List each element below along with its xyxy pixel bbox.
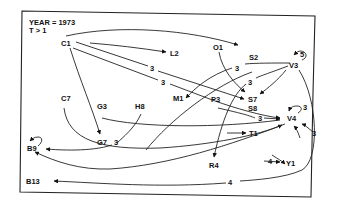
edge-label-v3-self: 5 [300,50,304,59]
node-g7: G7 [97,138,107,147]
node-v3: V3 [289,61,298,70]
threshold-label: T > 1 [29,26,46,35]
node-s8: S8 [248,104,257,113]
node-l2: L2 [170,49,179,58]
edge-to-y1-a [272,155,285,164]
node-c7: C7 [61,94,71,103]
edge-g3-t1 [102,118,280,126]
edge-label-c1-s7: 3 [150,64,154,73]
node-b13: B13 [26,177,40,186]
node-v4: V4 [287,114,297,123]
node-c1: C1 [61,39,71,48]
edge-label-h8-b9: 3 [114,138,118,147]
edge-label-p3-v4: 3 [258,114,262,123]
edge-below-to-v4 [294,126,300,138]
edge-h8-b9 [46,114,141,150]
node-g3: G3 [97,102,107,111]
edge-label-right-to-v4: 3 [312,129,316,138]
network-diagram: YEAR = 1973 T > 1 3 3 3 3 5 3 3 3 3 4 4 … [0,0,348,210]
edge-label-v3-m1: 3 [235,64,239,73]
node-b9: B9 [27,144,37,153]
node-y1: Y1 [286,159,295,168]
node-o1: O1 [213,43,223,52]
edge-v3-s7 [260,70,286,94]
edge-label-v3-b13: 4 [228,178,233,187]
node-r4: R4 [209,161,219,170]
edge-label-v4-self: 3 [303,103,307,112]
node-m1: M1 [173,94,183,103]
edge-c1-g7 [70,48,100,134]
edge-v4-b9 [35,124,285,169]
node-h8: H8 [135,102,145,111]
node-p3: P3 [211,95,220,104]
edge-label-c1-v4: 3 [161,78,165,87]
node-s2: S2 [249,53,258,62]
node-t1: T1 [249,129,258,138]
node-s7: S7 [248,95,257,104]
edge-label-v3-r4: 3 [248,78,252,87]
edge-v4-self [289,106,301,113]
